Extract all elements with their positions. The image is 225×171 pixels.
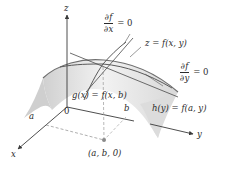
z-axis-label: z [64,4,68,13]
surface-label: z = f(x, y) [145,39,187,48]
leader-surface [130,47,141,57]
partial-x-numerator: ∂f [104,13,114,24]
y-axis-label: y [197,130,202,139]
h-trace-label: h(y) = f(a, y) [152,104,207,113]
partial-y-equals: = 0 [193,68,208,77]
point-label: (a, b, 0) [88,149,121,158]
figure-canvas: z x y 0 a b ∂f ∂x = 0 z = f(x, y) ∂f ∂y … [0,0,225,171]
partial-x-equals: = 0 [117,19,132,28]
partial-x-label: ∂f ∂x = 0 [103,13,132,33]
x-axis-label: x [11,150,16,159]
partial-y-numerator: ∂f [180,62,190,73]
b-label: b [124,104,129,113]
partial-y-denominator: ∂y [179,73,190,83]
dashed-a-line [46,125,104,140]
dashed-b-line [104,117,126,140]
partial-x-denominator: ∂x [103,24,114,34]
point-abz [102,138,106,142]
origin-label: 0 [64,107,69,116]
a-label: a [29,112,34,121]
partial-y-label: ∂f ∂y = 0 [179,62,208,82]
g-trace-label: g(x) = f(x, b) [72,91,127,100]
x-axis [18,107,67,149]
